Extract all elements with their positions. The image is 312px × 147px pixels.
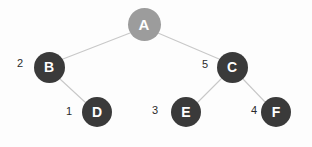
tree-node-label-f: F [272,105,281,119]
tree-node-label-b: B [44,60,54,74]
tree-node-a[interactable]: A [128,8,161,41]
tree-node-e[interactable]: E [171,97,201,127]
edge-weight-f: 4 [251,105,257,116]
tree-edge-c-e [197,79,221,103]
tree-node-b[interactable]: B [34,52,65,83]
edge-weight-d: 1 [66,106,72,117]
binary-tree-diagram: ABCDEF 25134 [0,0,312,147]
tree-node-d[interactable]: D [82,97,112,127]
edge-weight-c: 5 [202,59,208,70]
tree-edge-b-d [60,79,86,103]
tree-node-c[interactable]: C [217,52,248,83]
tree-edge-a-c [158,33,219,59]
tree-node-label-c: C [227,60,237,74]
edge-weight-e: 3 [152,105,158,116]
tree-node-label-e: E [181,105,190,119]
tree-node-label-a: A [139,16,150,31]
edge-weight-b: 2 [17,58,23,69]
tree-edge-c-f [243,79,266,103]
tree-node-f[interactable]: F [261,97,291,127]
tree-node-label-d: D [92,105,102,119]
tree-edge-a-b [63,33,130,59]
